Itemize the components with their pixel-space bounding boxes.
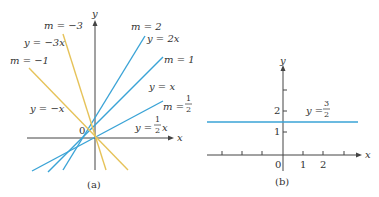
svg-text:y =: y =	[134, 122, 152, 133]
origin-label: 0	[275, 159, 281, 170]
label-y-2x: y = 2x	[146, 33, 180, 44]
label-y-half-x: y = 1 2 x	[134, 115, 168, 135]
label-y-x: y = x	[148, 81, 175, 92]
y-tick-label-2: 2	[274, 105, 280, 116]
svg-text:1: 1	[186, 94, 191, 103]
y-axis-label: y	[279, 55, 286, 66]
label-m-neg1: m = −1	[10, 55, 49, 66]
svg-text:1: 1	[155, 115, 160, 124]
label-y-three-halves: y = 3 2	[305, 99, 330, 119]
svg-text:m =: m =	[163, 101, 184, 112]
panel-a: x y 0 m = 2 y = 2x m = 1 y = x m = 1 2 y…	[10, 8, 195, 190]
svg-text:2: 2	[324, 110, 329, 119]
y-tick-label-1: 1	[274, 126, 280, 137]
x-axis-label: x	[177, 132, 183, 143]
x-tick-label-2: 2	[320, 159, 326, 170]
panel-b: x y 0 1 2 1 2 y = 3 2 (b)	[207, 55, 371, 187]
label-m-half: m = 1 2	[163, 94, 192, 114]
x-tick-label-1: 1	[300, 159, 306, 170]
caption-a: (a)	[87, 179, 101, 190]
caption-b: (b)	[275, 176, 289, 187]
label-m-2: m = 2	[131, 21, 162, 32]
y-axis-arrow-icon	[93, 20, 98, 26]
label-y-negx: y = −x	[29, 103, 65, 114]
svg-text:2: 2	[186, 105, 191, 114]
svg-text:y =: y =	[305, 105, 323, 116]
y-ticks	[283, 90, 287, 132]
svg-text:x: x	[162, 122, 168, 133]
line-slope-2	[63, 36, 145, 170]
label-m-1: m = 1	[164, 54, 195, 65]
y-axis-label: y	[91, 8, 98, 19]
x-axis-arrow-icon	[168, 136, 174, 141]
figure: x y 0 m = 2 y = 2x m = 1 y = x m = 1 2 y…	[0, 0, 379, 197]
svg-text:3: 3	[324, 99, 329, 108]
line-slope-1	[48, 57, 163, 172]
svg-text:2: 2	[155, 126, 160, 135]
label-m-neg3: m = −3	[44, 20, 83, 31]
x-axis-label: x	[365, 149, 371, 160]
label-y-neg3x: y = −3x	[23, 37, 65, 48]
x-axis-arrow-icon	[356, 153, 362, 158]
